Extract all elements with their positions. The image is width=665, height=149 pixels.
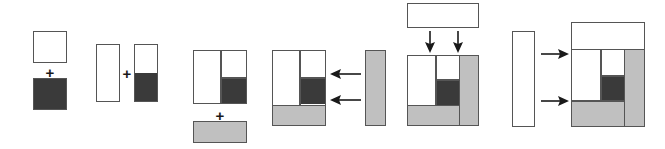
step-5-gray-right-column xyxy=(459,56,478,125)
step-6-top-band-divider xyxy=(572,49,644,51)
step-2-column-dark-lower xyxy=(135,73,157,101)
step-3-right-horizontal-divider xyxy=(220,77,246,79)
step-5-dark-cell xyxy=(435,79,458,104)
step-3-two-column-block xyxy=(193,50,247,104)
step-4-arrow-left-upper xyxy=(330,68,362,80)
step-4-gray-vertical-bar xyxy=(365,50,386,126)
step-4-arrow-left-lower xyxy=(330,94,362,106)
step-6-base-divider xyxy=(572,100,624,102)
step-4-gray-base-band xyxy=(273,105,325,125)
step-5-base-divider xyxy=(408,105,459,107)
step-4-base-divider xyxy=(273,105,325,107)
step-6-arrow-right-lower xyxy=(541,95,569,107)
step-5-arrow-down-left xyxy=(424,31,436,53)
step-6-right-vertical-divider xyxy=(624,49,626,126)
diagram-canvas: + + + xyxy=(0,0,665,149)
step-5-arrow-down-right xyxy=(452,31,464,53)
step-3-gray-horizontal-bar xyxy=(193,121,247,143)
step-1-white-square xyxy=(33,31,67,63)
step-2-half-dark-column xyxy=(134,44,158,102)
step-1-dark-square xyxy=(33,78,67,110)
step-6-middle-horizontal-divider xyxy=(600,75,623,77)
step-4-right-horizontal-divider xyxy=(299,77,325,79)
step-6-arrow-right-upper xyxy=(541,48,569,60)
step-5-gray-base-band xyxy=(408,105,459,125)
step-2-white-column xyxy=(96,44,120,102)
step-2-plus-operator: + xyxy=(120,66,134,81)
step-5-block-with-gray-column xyxy=(407,55,479,126)
step-6-dark-cell xyxy=(600,75,623,100)
step-5-white-horizontal-bar xyxy=(407,3,479,28)
step-6-gray-right-column xyxy=(624,49,644,126)
step-4-block-with-gray-base xyxy=(272,50,326,126)
step-5-right-vertical-divider xyxy=(459,56,461,125)
step-5-middle-horizontal-divider xyxy=(435,79,458,81)
step-6-final-composite-block xyxy=(571,22,645,127)
step-4-dark-quadrant xyxy=(299,77,325,104)
step-6-gray-base-band xyxy=(572,100,624,126)
step-3-dark-quadrant xyxy=(220,77,246,103)
step-6-white-top-band xyxy=(572,23,644,49)
step-6-white-vertical-bar xyxy=(512,31,535,127)
